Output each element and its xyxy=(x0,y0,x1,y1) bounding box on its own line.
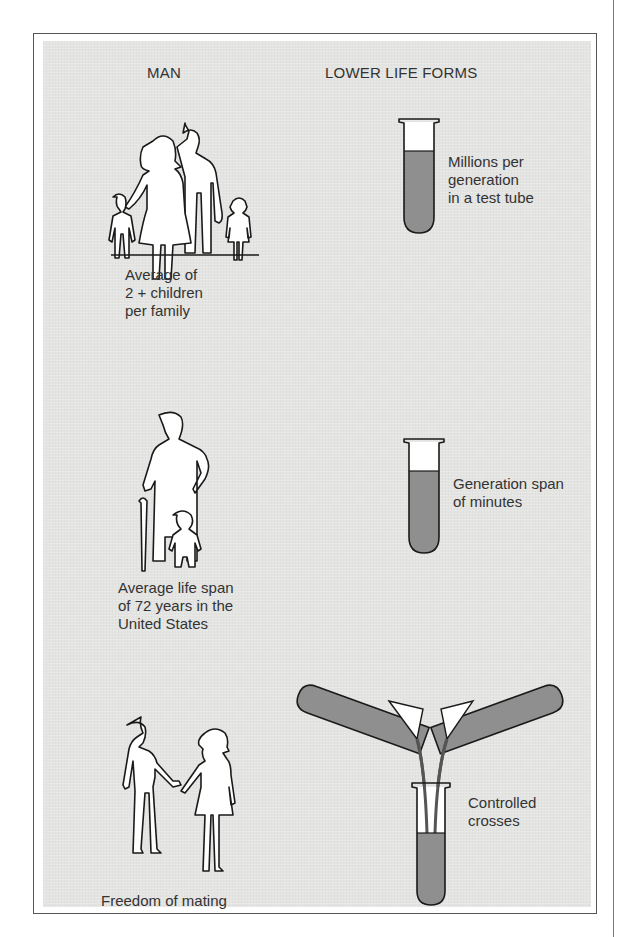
elderly-man-with-child-icon xyxy=(127,411,237,581)
column-header-man: MAN xyxy=(147,64,181,81)
page-margin-rule xyxy=(613,0,614,937)
figure-frame: MAN LOWER LIFE FORMS Average of 2 + chil… xyxy=(33,33,597,914)
test-tube-icon xyxy=(398,117,442,235)
family-icon xyxy=(91,121,261,261)
caption-freedom-of-mating: Freedom of mating xyxy=(101,892,227,910)
caption-generation-span: Generation span of minutes xyxy=(453,475,564,511)
test-tube-icon xyxy=(403,437,447,555)
figure-panel: MAN LOWER LIFE FORMS Average of 2 + chil… xyxy=(43,41,591,907)
pouring-test-tubes-icon xyxy=(301,669,561,869)
couple-holding-hands-icon xyxy=(107,721,247,881)
caption-millions-per-generation: Millions per generation in a test tube xyxy=(448,153,534,207)
caption-controlled-crosses: Controlled crosses xyxy=(468,794,536,830)
caption-life-span: Average life span of 72 years in the Uni… xyxy=(118,579,234,633)
column-header-lower-life-forms: LOWER LIFE FORMS xyxy=(325,64,477,81)
caption-family-size: Average of 2 + children per family xyxy=(125,266,203,320)
